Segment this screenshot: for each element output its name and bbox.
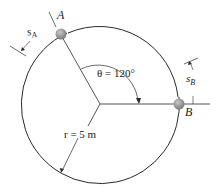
s-a-extension-line (49, 12, 56, 27)
label-point-b: B (185, 105, 193, 119)
arrowhead-icon (136, 98, 141, 104)
radius-line-r (88, 104, 100, 126)
label-point-a: A (56, 8, 65, 22)
circular-path-top (68, 26, 178, 97)
s-a-extension-line-2 (10, 46, 26, 56)
label-radius: r = 5 m (64, 128, 97, 140)
ball-a (56, 29, 67, 40)
radius-line-a (61, 35, 100, 104)
circular-path-diagram: A B sA sB θ = 120° r = 5 m (0, 0, 219, 194)
label-s-b: sB (186, 72, 195, 87)
circular-path (21, 33, 179, 184)
label-s-a: sA (26, 24, 38, 40)
ball-b (174, 99, 185, 110)
label-theta: θ = 120° (97, 67, 135, 79)
radius-dimension-arrow (62, 138, 78, 171)
